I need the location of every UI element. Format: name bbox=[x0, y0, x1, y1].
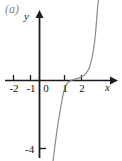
x-axis-arrowhead bbox=[110, 77, 118, 85]
x-tick-label-minus2: -2 bbox=[7, 82, 21, 94]
x-tick-label-two: 2 bbox=[77, 82, 87, 94]
x-axis-label: x bbox=[105, 81, 110, 93]
x-tick-label-minus1: -1 bbox=[24, 82, 38, 94]
panel-label: (a) bbox=[5, 2, 19, 17]
y-axis-arrowhead bbox=[36, 10, 44, 18]
y-axis-label: y bbox=[24, 10, 29, 22]
y-tick-label-minus4: -4 bbox=[25, 143, 34, 155]
figure-panel: (a) y x -2 -1 0 1 2 -4 bbox=[0, 0, 122, 161]
x-tick-label-one: 1 bbox=[60, 82, 70, 94]
x-tick-label-zero: 0 bbox=[41, 82, 51, 94]
graph-canvas bbox=[0, 0, 122, 161]
